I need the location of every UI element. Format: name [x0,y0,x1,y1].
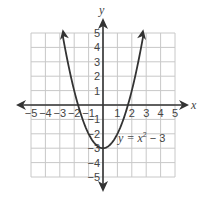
y-tick-label: −5 [87,171,100,183]
y-tick-label: 3 [94,56,100,68]
curve-arrowhead [60,29,69,40]
y-tick-label: −4 [87,157,100,169]
y-tick-label: −1 [87,113,100,125]
x-tick-label: 4 [158,107,164,119]
x-tick-label: 1 [114,107,120,119]
y-tick-label: 1 [94,85,100,97]
x-tick-label: −5 [25,107,38,119]
y-tick-label: −3 [87,142,100,154]
y-tick-label: 5 [94,27,100,39]
y-tick-label: 4 [94,41,100,53]
x-tick-label: −4 [39,107,52,119]
x-axis-label: x [190,98,197,112]
equation-prefix: y = x [117,131,143,145]
parabola-chart: x y −5−4−3−2−11234554321−1−2−3−4−5 y = x… [0,0,209,200]
x-tick-label: 5 [172,107,178,119]
equation-suffix: − 3 [147,132,166,144]
x-tick-label: −3 [54,107,67,119]
equation-label: y = x2 − 3 [117,131,165,145]
axes: x y [16,3,197,192]
x-tick-label: 2 [129,107,135,119]
x-tick-label: 3 [143,107,149,119]
y-axis-label: y [98,3,105,17]
y-tick-label: 2 [94,70,100,82]
curve-arrowhead [137,29,146,40]
